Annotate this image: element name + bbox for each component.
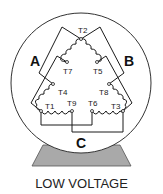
label-t2: T2 xyxy=(78,26,88,35)
label-t8: T8 xyxy=(99,88,109,97)
terminal-dot-t7 xyxy=(66,61,69,64)
terminal-dot-t4 xyxy=(52,83,55,86)
label-t9: T9 xyxy=(67,99,77,108)
phase-label-c: C xyxy=(76,135,86,151)
terminal-dot-t1 xyxy=(40,110,43,113)
label-t7: T7 xyxy=(63,67,73,76)
phase-label-a: A xyxy=(30,53,40,69)
terminal-dot-t8 xyxy=(108,83,111,86)
label-t3: T3 xyxy=(111,102,121,111)
terminal-dot-t9 xyxy=(71,110,74,113)
phase-label-b: B xyxy=(124,53,134,69)
label-t4: T4 xyxy=(58,88,68,97)
terminal-dot-t2 xyxy=(80,38,83,41)
label-t6: T6 xyxy=(88,99,98,108)
motor-wiring-diagram: T2 T7 T5 T4 T8 T1 T9 T6 T3 A B C xyxy=(0,0,163,194)
terminal-dot-t3 xyxy=(122,110,125,113)
terminal-dot-t5 xyxy=(96,61,99,64)
terminal-dot-t6 xyxy=(91,110,94,113)
label-t5: T5 xyxy=(93,67,103,76)
diagram-caption: LOW VOLTAGE xyxy=(0,176,163,191)
label-t1: T1 xyxy=(45,102,55,111)
